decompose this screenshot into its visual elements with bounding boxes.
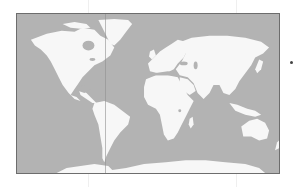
region-new-zealand	[275, 140, 279, 150]
region-australia	[241, 119, 269, 141]
lake-black-sea	[180, 61, 188, 65]
region-arctic-islands	[63, 22, 91, 29]
world-map	[16, 13, 280, 174]
lake-hudson-bay	[83, 41, 95, 51]
lake-caspian	[194, 61, 198, 69]
region-madagascar	[189, 117, 194, 129]
marker-dot	[290, 61, 293, 64]
lake-victoria	[178, 109, 181, 112]
region-japan	[255, 59, 263, 73]
map-canvas	[17, 14, 279, 173]
region-antarctica	[57, 160, 265, 173]
region-south-america	[92, 101, 130, 162]
sea-gulf-of-mexico	[77, 85, 91, 93]
meridian-line	[105, 14, 106, 173]
lake-great-lakes	[89, 58, 95, 61]
region-indonesia	[229, 103, 261, 117]
region-north-america	[31, 28, 114, 101]
